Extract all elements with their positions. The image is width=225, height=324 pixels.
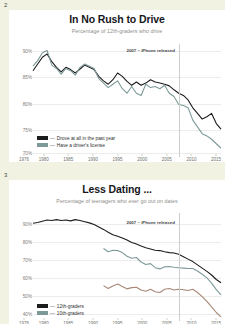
x-tick-mark: [68, 154, 69, 156]
legend-swatch-license: [37, 143, 48, 147]
x-tick-mark: [68, 318, 69, 320]
iphone-release-marker-2: [179, 213, 180, 321]
page-container: 2 In No Rush to Drive Percentage of 12th…: [0, 0, 225, 324]
legend-dash: —: [50, 304, 55, 309]
y-tick: 60%: [23, 276, 32, 281]
y-tick: 40%: [23, 312, 32, 317]
x-tick-mark: [142, 154, 143, 156]
x-tick-label: 1985: [63, 157, 73, 162]
y-axis-labels-2: 90% 80% 70% 60% 50% 40%: [9, 207, 33, 319]
x-tick-mark: [92, 318, 93, 320]
y-axis-labels-1: 90% 85% 80% 75% 70%: [9, 37, 33, 155]
y-tick: 90%: [23, 48, 32, 53]
plot-area-1: 90% 85% 80% 75% 70% 2007 – iPhone releas…: [9, 37, 225, 155]
y-tick: 75%: [23, 128, 32, 133]
x-tick-label: 2000: [137, 157, 147, 162]
y-tick: 90%: [23, 222, 32, 227]
legend-item: — 10th-graders: [37, 310, 84, 317]
legend-2: — 12th-graders — 10th-graders: [37, 303, 84, 317]
legend-swatch-drove: [37, 136, 48, 140]
x-tick-mark: [24, 318, 25, 320]
series-line: [104, 248, 222, 294]
iphone-release-label-1: 2007 – iPhone released: [126, 48, 176, 53]
legend-dash: —: [50, 311, 55, 316]
x-tick-mark: [43, 154, 44, 156]
iphone-release-label-2: 2007 – iPhone released: [126, 220, 176, 225]
x-tick-label: 2005: [162, 157, 172, 162]
x-tick-mark: [117, 318, 118, 320]
y-tick: 50%: [23, 294, 32, 299]
plot-area-2: 90% 80% 70% 60% 50% 40% 2007 – iPhone re…: [9, 207, 225, 319]
iphone-release-marker-1: [179, 44, 180, 157]
legend-label: 10th-graders: [57, 311, 84, 316]
x-tick-mark: [191, 318, 192, 320]
y-tick: 70%: [23, 258, 32, 263]
x-tick-mark: [166, 318, 167, 320]
legend-item: — 12th-graders: [37, 303, 84, 310]
chart-title-2: Less Dating ...: [9, 180, 225, 196]
x-tick-mark: [92, 154, 93, 156]
chart-subtitle-2: Percentage of teenagers who ever go out …: [9, 196, 225, 204]
legend-1: — Drove at all in the past year — Have a…: [37, 135, 115, 149]
x-tick-mark: [216, 318, 217, 320]
legend-label: 12th-graders: [57, 304, 84, 309]
x-tick-mark: [216, 154, 217, 156]
x-axis-2: 197619801985199019952000200520102015: [24, 318, 221, 324]
x-tick-label: 1995: [113, 157, 123, 162]
page-number-2: 2: [4, 2, 8, 8]
x-tick-mark: [166, 154, 167, 156]
series-line: [33, 219, 221, 282]
x-tick-label: 2015: [211, 157, 221, 162]
x-tick-label: 1990: [88, 157, 98, 162]
series-line: [33, 53, 221, 128]
x-tick-mark: [142, 318, 143, 320]
x-tick-label: 2010: [186, 157, 196, 162]
legend-label: Drove at all in the past year: [57, 136, 115, 141]
legend-label: Have a driver's license: [57, 143, 105, 148]
y-tick: 80%: [23, 240, 32, 245]
series-line: [33, 50, 221, 148]
legend-dash: —: [50, 143, 55, 148]
x-tick-label: 1976: [19, 157, 29, 162]
chart-card-less-dating: Less Dating ... Percentage of teenagers …: [9, 180, 225, 324]
legend-item: — Drove at all in the past year: [37, 135, 115, 142]
page-number-3: 3: [4, 172, 8, 178]
legend-swatch-12th: [37, 304, 48, 308]
x-tick-mark: [24, 154, 25, 156]
series-line: [104, 284, 222, 317]
chart-title-1: In No Rush to Drive: [9, 10, 225, 26]
x-tick-mark: [43, 318, 44, 320]
legend-item: — Have a driver's license: [37, 142, 115, 149]
legend-swatch-10th: [37, 311, 48, 315]
x-tick-mark: [191, 154, 192, 156]
x-tick-label: 1980: [39, 157, 49, 162]
y-tick: 80%: [23, 101, 32, 106]
x-axis-1: 197619801985199019952000200520102015: [24, 154, 221, 165]
legend-dash: —: [50, 136, 55, 141]
y-tick: 85%: [23, 75, 32, 80]
chart-subtitle-1: Percentage of 12th-graders who drive: [9, 26, 225, 34]
chart-card-in-no-rush-to-drive: In No Rush to Drive Percentage of 12th-g…: [9, 10, 225, 162]
x-tick-mark: [117, 154, 118, 156]
